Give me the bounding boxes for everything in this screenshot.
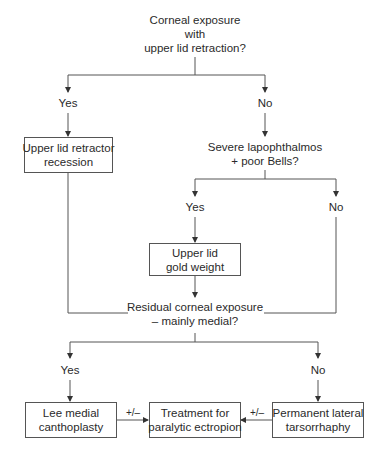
q3-line-1: Residual corneal exposure bbox=[125, 300, 265, 314]
gold-line-1: Upper lid bbox=[172, 246, 218, 260]
treatment-line-2: paralytic ectropion bbox=[148, 420, 241, 434]
label-q1-yes: Yes bbox=[59, 96, 78, 110]
box-lee-medial-canthoplasty: Lee medial canthoplasty bbox=[25, 402, 117, 438]
label-q2-no: No bbox=[329, 200, 344, 214]
box-upper-lid-gold-weight: Upper lid gold weight bbox=[149, 243, 241, 276]
connector-lines bbox=[0, 0, 382, 462]
label-lee-plus-minus: +/– bbox=[126, 406, 140, 420]
lee-line-1: Lee medial bbox=[43, 406, 99, 420]
label-tarsorrhaphy-plus-minus: +/– bbox=[250, 406, 264, 420]
question-residual-corneal-exposure: Residual corneal exposure – mainly media… bbox=[125, 300, 265, 328]
tarsorrhaphy-line-2: tarsorrhaphy bbox=[286, 420, 351, 434]
retractor-line-2: recession bbox=[44, 155, 93, 169]
question-severe-lagophthalmos: Severe lapophthalmos + poor Bells? bbox=[200, 140, 330, 168]
edge-q2no-q3 bbox=[264, 217, 336, 313]
box-treatment-paralytic-ectropion: Treatment for paralytic ectropion bbox=[149, 402, 241, 438]
label-q2-yes: Yes bbox=[186, 200, 205, 214]
retractor-line-1: Upper lid retractor bbox=[22, 141, 114, 155]
q3-line-2: – mainly medial? bbox=[125, 314, 265, 328]
q1-line-3: upper lid retraction? bbox=[120, 41, 270, 55]
tarsorrhaphy-line-1: Permanent lateral bbox=[273, 406, 364, 420]
label-q3-yes: Yes bbox=[61, 363, 80, 377]
edge-retractor-q3 bbox=[68, 173, 128, 313]
question-corneal-exposure: Corneal exposure with upper lid retracti… bbox=[120, 13, 270, 55]
lee-line-2: canthoplasty bbox=[39, 420, 104, 434]
q1-line-2: with bbox=[120, 27, 270, 41]
label-q1-no: No bbox=[258, 96, 273, 110]
q2-line-2: + poor Bells? bbox=[200, 154, 330, 168]
box-permanent-lateral-tarsorrhaphy: Permanent lateral tarsorrhaphy bbox=[272, 402, 364, 438]
q1-line-1: Corneal exposure bbox=[120, 13, 270, 27]
label-q3-no: No bbox=[311, 363, 326, 377]
treatment-line-1: Treatment for bbox=[161, 406, 230, 420]
box-upper-lid-retractor-recession: Upper lid retractor recession bbox=[24, 137, 113, 173]
gold-line-2: gold weight bbox=[166, 260, 224, 274]
q2-line-1: Severe lapophthalmos bbox=[200, 140, 330, 154]
